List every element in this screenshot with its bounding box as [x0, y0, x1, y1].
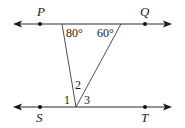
geometry-diagram: P Q S T 80° 60° 1 2 3 — [0, 0, 185, 128]
label-t: T — [141, 110, 149, 125]
angle-label-3: 3 — [84, 93, 90, 107]
angle-label-80: 80° — [66, 26, 83, 40]
angle-label-60: 60° — [97, 26, 114, 40]
angle-label-2: 2 — [75, 78, 81, 92]
label-s: S — [36, 110, 43, 125]
point-s — [38, 105, 42, 109]
point-q — [143, 22, 147, 26]
angle-label-1: 1 — [64, 93, 70, 107]
line-pq — [13, 21, 172, 28]
point-t — [143, 105, 147, 109]
point-p — [38, 22, 42, 26]
label-q: Q — [140, 4, 150, 19]
label-p: P — [36, 4, 45, 19]
